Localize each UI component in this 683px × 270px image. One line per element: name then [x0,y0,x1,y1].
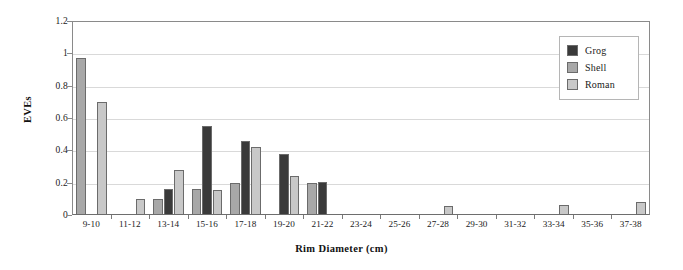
x-tick-mark [534,215,535,219]
bar-shell-9-10 [76,58,86,215]
x-tick-label: 31-32 [496,218,535,230]
x-tick-mark [419,215,420,219]
bar-shell-15-16 [192,189,202,215]
legend-swatch-roman [567,79,578,90]
legend-item-roman: Roman [567,76,632,93]
x-tick-label: 19-20 [265,218,304,230]
bar-grog-21-22 [318,182,328,215]
bar-roman-33-34 [559,205,569,215]
x-tick-label: 37-38 [611,218,650,230]
x-tick-label: 29-30 [457,218,496,230]
bar-roman-9-10 [97,102,107,215]
x-tick-label: 17-18 [226,218,265,230]
y-axis-ticks: 00.20.40.60.811.2 [28,0,68,270]
bar-grog-13-14 [164,189,174,215]
y-tick-mark [67,183,72,184]
x-tick-label: 35-36 [573,218,612,230]
x-tick-mark [226,215,227,219]
legend-swatch-grog [567,45,578,56]
x-tick-label: 21-22 [303,218,342,230]
x-tick-label: 27-28 [419,218,458,230]
bar-grog-15-16 [202,126,212,215]
x-tick-mark [611,215,612,219]
bar-roman-19-20 [290,176,300,215]
legend-label-roman: Roman [585,79,615,90]
bar-shell-21-22 [307,183,317,215]
x-tick-mark [303,215,304,219]
x-tick-label: 9-10 [72,218,111,230]
legend-swatch-shell [567,62,578,73]
bar-shell-13-14 [153,199,163,215]
y-tick-mark [67,150,72,151]
bar-grog-17-18 [241,141,251,215]
y-tick-label: 0.2 [34,178,68,188]
chart-legend: Grog Shell Roman [559,36,639,100]
legend-label-grog: Grog [585,45,606,56]
y-tick-mark [67,215,72,216]
x-tick-mark [573,215,574,219]
x-axis-ticks: 9-1011-1213-1415-1617-1819-2021-2223-242… [72,218,650,234]
legend-item-shell: Shell [567,59,632,76]
x-tick-mark [457,215,458,219]
x-tick-mark [111,215,112,219]
x-tick-label: 11-12 [111,218,150,230]
y-tick-label: 0.8 [34,81,68,91]
bar-roman-17-18 [251,147,261,215]
x-tick-mark [149,215,150,219]
x-tick-label: 25-26 [380,218,419,230]
x-tick-mark [188,215,189,219]
legend-item-grog: Grog [567,42,632,59]
y-tick-mark [67,53,72,54]
bar-grog-19-20 [279,154,289,215]
y-tick-label: 0.4 [34,145,68,155]
x-tick-label: 13-14 [149,218,188,230]
y-tick-mark [67,118,72,119]
y-tick-mark [67,21,72,22]
x-tick-mark [265,215,266,219]
x-axis-title: Rim Diameter (cm) [0,243,683,254]
y-tick-label: 1 [34,48,68,58]
legend-label-shell: Shell [585,62,607,73]
y-tick-label: 0.6 [34,113,68,123]
bar-shell-17-18 [230,183,240,215]
bar-roman-13-14 [174,170,184,215]
bar-roman-15-16 [213,190,223,215]
bar-roman-27-28 [444,206,454,215]
x-tick-label: 23-24 [342,218,381,230]
bar-roman-11-12 [136,199,146,215]
y-tick-label: 0 [34,210,68,220]
y-tick-mark [67,86,72,87]
x-tick-label: 33-34 [534,218,573,230]
y-tick-label: 1.2 [34,16,68,26]
x-tick-label: 15-16 [188,218,227,230]
bar-roman-37-38 [636,202,646,215]
chart-container: EVEs 00.20.40.60.811.2 9-1011-1213-1415-… [0,0,683,270]
x-tick-mark [496,215,497,219]
x-tick-mark [380,215,381,219]
x-tick-mark [342,215,343,219]
